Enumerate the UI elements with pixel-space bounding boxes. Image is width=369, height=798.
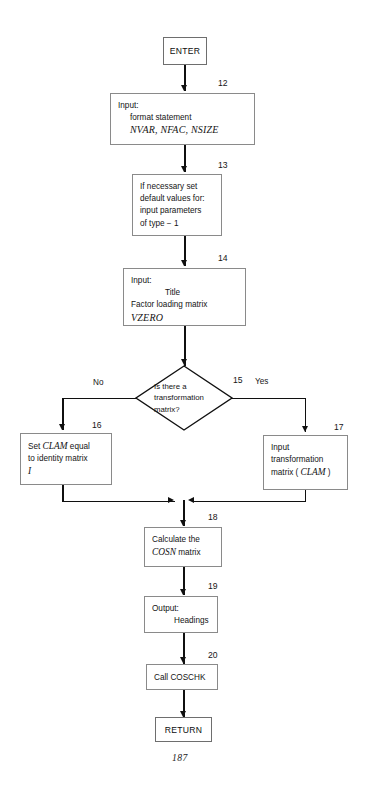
node-16-variable-clam: CLAM — [43, 441, 68, 451]
node-14-number: 14 — [218, 253, 228, 263]
node-13-number: 13 — [218, 160, 228, 170]
arrowhead-into-17 — [302, 426, 308, 432]
connector-merge-right — [193, 501, 306, 503]
node-14-line-3: Factor loading matrix — [131, 299, 238, 311]
node-13-line-2: default values for: — [140, 193, 214, 205]
arrowhead-into-12 — [181, 85, 187, 91]
node-enter: ENTER — [163, 37, 207, 65]
node-15-line-1: Is there a — [154, 381, 233, 392]
connector-15-yes-horizontal — [232, 398, 306, 400]
arrowhead-into-13 — [181, 166, 187, 172]
node-return: RETURN — [155, 717, 212, 742]
node-14: Input: Title Factor loading matrix VZERO — [123, 268, 246, 326]
node-14-line-2: Title — [131, 287, 238, 299]
node-13-line-4: of type − 1 — [140, 218, 214, 230]
node-18: Calculate the COSN matrix — [144, 527, 222, 567]
node-14-line-1: Input: — [131, 275, 238, 287]
node-17-number: 17 — [334, 422, 344, 432]
node-15-number: 15 — [233, 375, 243, 385]
node-16-line-1: Set CLAM equal — [28, 440, 104, 453]
node-17-line-3: matrix ( CLAM ) — [271, 466, 340, 479]
connector-15-no-horizontal — [62, 398, 136, 400]
node-17-line-2: transformation — [271, 454, 340, 466]
node-15: Is there a transformation matrix? — [135, 365, 233, 431]
node-17-line-1: Input — [271, 442, 340, 454]
node-17-line-3c: ) — [326, 468, 331, 477]
branch-label-yes: Yes — [255, 377, 268, 386]
node-12-line-2: format statement — [118, 112, 247, 124]
node-17: Input transformation matrix ( CLAM ) — [263, 435, 348, 490]
node-16-line-1a: Set — [28, 442, 43, 451]
node-18-line-1: Calculate the — [152, 534, 214, 546]
branch-label-no: No — [93, 378, 103, 387]
page-number: 187 — [172, 752, 188, 763]
node-16-line-1c: equal — [68, 442, 90, 451]
node-17-variable-clam: CLAM — [301, 467, 326, 477]
node-18-line-2: COSN matrix — [152, 546, 214, 559]
node-16-line-3: I — [28, 465, 104, 477]
arrowhead-merge-from-right — [188, 497, 194, 503]
arrowhead-merge-from-left — [168, 497, 174, 503]
node-15-line-2: transformation — [154, 392, 233, 403]
node-20-line-1: Call COSCHK — [154, 672, 210, 684]
node-19-line-1: Output: — [152, 603, 210, 615]
arrowhead-into-14 — [181, 260, 187, 266]
arrowhead-into-18 — [180, 520, 186, 526]
node-16: Set CLAM equal to identity matrix I — [20, 433, 112, 485]
arrowhead-into-19 — [180, 589, 186, 595]
node-14-line-4: VZERO — [131, 312, 238, 324]
node-18-number: 18 — [208, 512, 218, 522]
node-enter-label: ENTER — [170, 46, 201, 56]
node-19-line-2: Headings — [152, 615, 210, 627]
arrowhead-into-16 — [59, 424, 65, 430]
node-13-line-3: input parameters — [140, 205, 214, 217]
node-18-line-2b: matrix — [176, 548, 201, 557]
node-13: If necessary set default values for: inp… — [132, 174, 222, 236]
node-15-line-3: matrix? — [154, 404, 233, 415]
node-20-number: 20 — [208, 650, 218, 660]
flowchart-page: ENTER 12 Input: format statement NVAR, N… — [0, 0, 369, 798]
node-19: Output: Headings — [144, 596, 218, 633]
arrowhead-into-20 — [180, 657, 186, 663]
node-return-label: RETURN — [165, 725, 203, 735]
node-12: Input: format statement NVAR, NFAC, NSIZ… — [110, 93, 255, 145]
node-16-line-2: to identity matrix — [28, 453, 104, 465]
node-19-number: 19 — [208, 581, 218, 591]
node-13-line-1: If necessary set — [140, 181, 214, 193]
node-16-number: 16 — [92, 420, 102, 430]
node-17-line-3a: matrix ( — [271, 468, 301, 477]
node-12-line-3: NVAR, NFAC, NSIZE — [118, 124, 247, 136]
node-12-number: 12 — [218, 78, 228, 88]
node-12-line-1: Input: — [118, 100, 247, 112]
node-20: Call COSCHK — [146, 664, 218, 690]
connector-merge-left — [62, 501, 175, 503]
node-18-variable-cosn: COSN — [152, 547, 176, 557]
connector-16-to-merge — [62, 485, 64, 502]
